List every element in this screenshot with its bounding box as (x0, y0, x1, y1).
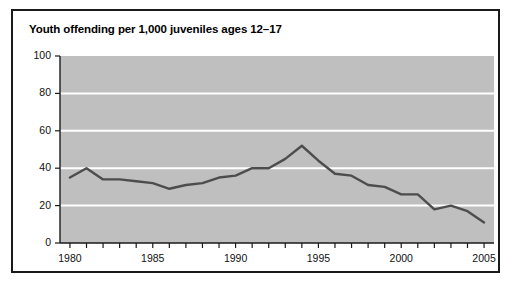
y-tick-label: 60 (39, 124, 51, 136)
plot-background (60, 56, 494, 243)
y-tick-label: 100 (33, 49, 51, 61)
y-tick-label: 40 (39, 161, 51, 173)
plot-area-wrapper: 020406080100 198019851990199520002005 (13, 11, 502, 275)
line-chart-svg (13, 11, 502, 275)
x-tick-label: 1980 (45, 252, 95, 264)
x-tick-label: 1995 (293, 252, 343, 264)
x-tick-label: 1990 (211, 252, 261, 264)
x-tick-label: 2000 (376, 252, 426, 264)
y-tick-label: 0 (45, 236, 51, 248)
x-tick-label: 2005 (459, 252, 509, 264)
chart-figure: Youth offending per 1,000 juveniles ages… (11, 9, 500, 273)
x-axis-ticks (70, 243, 484, 248)
y-tick-label: 20 (39, 199, 51, 211)
y-tick-label: 80 (39, 86, 51, 98)
y-axis-ticks (55, 56, 60, 243)
x-tick-label: 1985 (128, 252, 178, 264)
